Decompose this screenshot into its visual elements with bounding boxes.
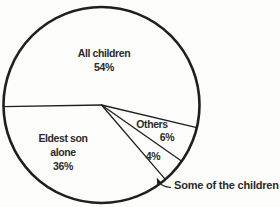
slice-label-text: All children xyxy=(44,46,164,60)
slice-percent-some-of-the-children: 4% xyxy=(128,149,178,163)
slice-label-all-children: All children 54% xyxy=(44,46,164,74)
slice-label-text: alone xyxy=(8,145,118,159)
pie-chart-figure: All children 54% Eldest son alone 36% Ot… xyxy=(0,0,280,207)
slice-label-text: Eldest son xyxy=(8,131,118,145)
callout-label-some-of-the-children: Some of the children xyxy=(174,179,279,192)
slice-percent: 54% xyxy=(44,60,164,74)
slice-boundary xyxy=(4,105,102,107)
slice-label-others: Others xyxy=(117,117,187,131)
slice-label-eldest-son-alone: Eldest son alone 36% xyxy=(8,131,118,173)
slice-percent: 36% xyxy=(8,159,118,173)
pie-chart xyxy=(0,0,280,207)
slice-percent-others: 6% xyxy=(142,130,192,144)
